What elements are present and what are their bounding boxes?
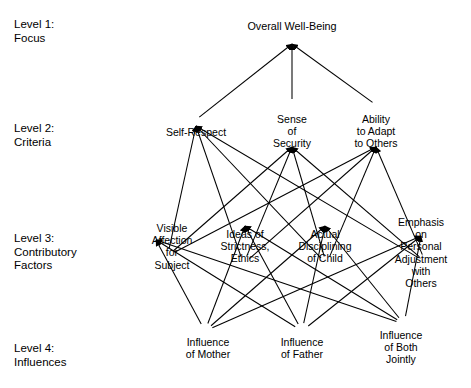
edge-self-respect-to-overall-well-being [199, 44, 292, 117]
node-emphasis-on-personal-adjustment-with-others: Emphasis on Personal Adjustment with Oth… [395, 216, 448, 289]
level-label-focus: Level 1: Focus [14, 18, 54, 45]
hierarchy-diagram: Level 1: Focus Level 2: Criteria Level 3… [0, 0, 471, 388]
node-self-respect: Self-Respect [166, 126, 226, 138]
node-actual-disciplining-of-child: Actual Disciplining of Child [298, 228, 351, 265]
node-ideas-of-strictness-ethics: Ideas of Strictness, Ethics [220, 228, 269, 265]
edge-ability-to-adapt-to-overall-well-being [292, 44, 373, 102]
node-influence-of-both-jointly: Influence of Both Jointly [380, 329, 423, 366]
node-sense-of-security: Sense of Security [273, 113, 311, 150]
level-label-influences: Level 4: Influences [14, 342, 66, 369]
node-visible-affection-for-subject: Visible Affection for Subject [152, 222, 193, 271]
edge-group [156, 44, 422, 328]
node-influence-of-mother: Influence of Mother [186, 336, 230, 360]
level-label-contributory-factors: Level 3: Contributory Factors [14, 232, 77, 273]
node-influence-of-father: Influence of Father [281, 336, 324, 360]
node-ability-to-adapt-to-others: Ability to Adapt to Others [354, 113, 397, 150]
node-overall-well-being: Overall Well-Being [247, 20, 336, 32]
level-label-criteria: Level 2: Criteria [14, 122, 54, 149]
